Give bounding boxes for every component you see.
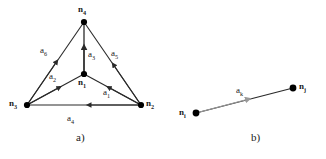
panel-b: ni nj ak b)	[163, 0, 326, 159]
panel-a: n4 n1 n3 n2 a1 a2 a3 a4 a5 a6 a)	[0, 0, 163, 159]
arc-label-a1: a1	[103, 88, 110, 97]
node-label-ni: ni	[179, 108, 186, 117]
arc-label-a3: a3	[88, 50, 95, 59]
arc-label-ak: ak	[236, 86, 243, 95]
node-nj-dot	[290, 85, 297, 92]
node-label-n3: n3	[9, 99, 17, 108]
node-label-n1: n1	[78, 78, 86, 87]
panel-a-caption: a)	[76, 131, 85, 143]
arc-a6	[27, 22, 84, 105]
node-label-n4: n4	[78, 5, 86, 14]
node-label-n2: n2	[146, 99, 154, 108]
arc-label-a5: a5	[111, 49, 118, 58]
node-label-nj: nj	[299, 82, 306, 91]
node-n4-dot	[81, 19, 87, 25]
arc-label-a4: a4	[67, 114, 74, 123]
panel-b-graphics	[163, 0, 326, 159]
arc-a1	[84, 74, 141, 105]
arc-ak	[196, 88, 293, 113]
node-ni-dot	[193, 110, 200, 117]
node-n2-dot	[138, 102, 144, 108]
arc-label-a2: a2	[49, 72, 56, 81]
figure-container: n4 n1 n3 n2 a1 a2 a3 a4 a5 a6 a)	[0, 0, 326, 159]
arc-a5	[84, 22, 141, 105]
panel-b-caption: b)	[251, 131, 260, 143]
node-n3-dot	[24, 102, 30, 108]
arc-label-a6: a6	[40, 46, 47, 55]
